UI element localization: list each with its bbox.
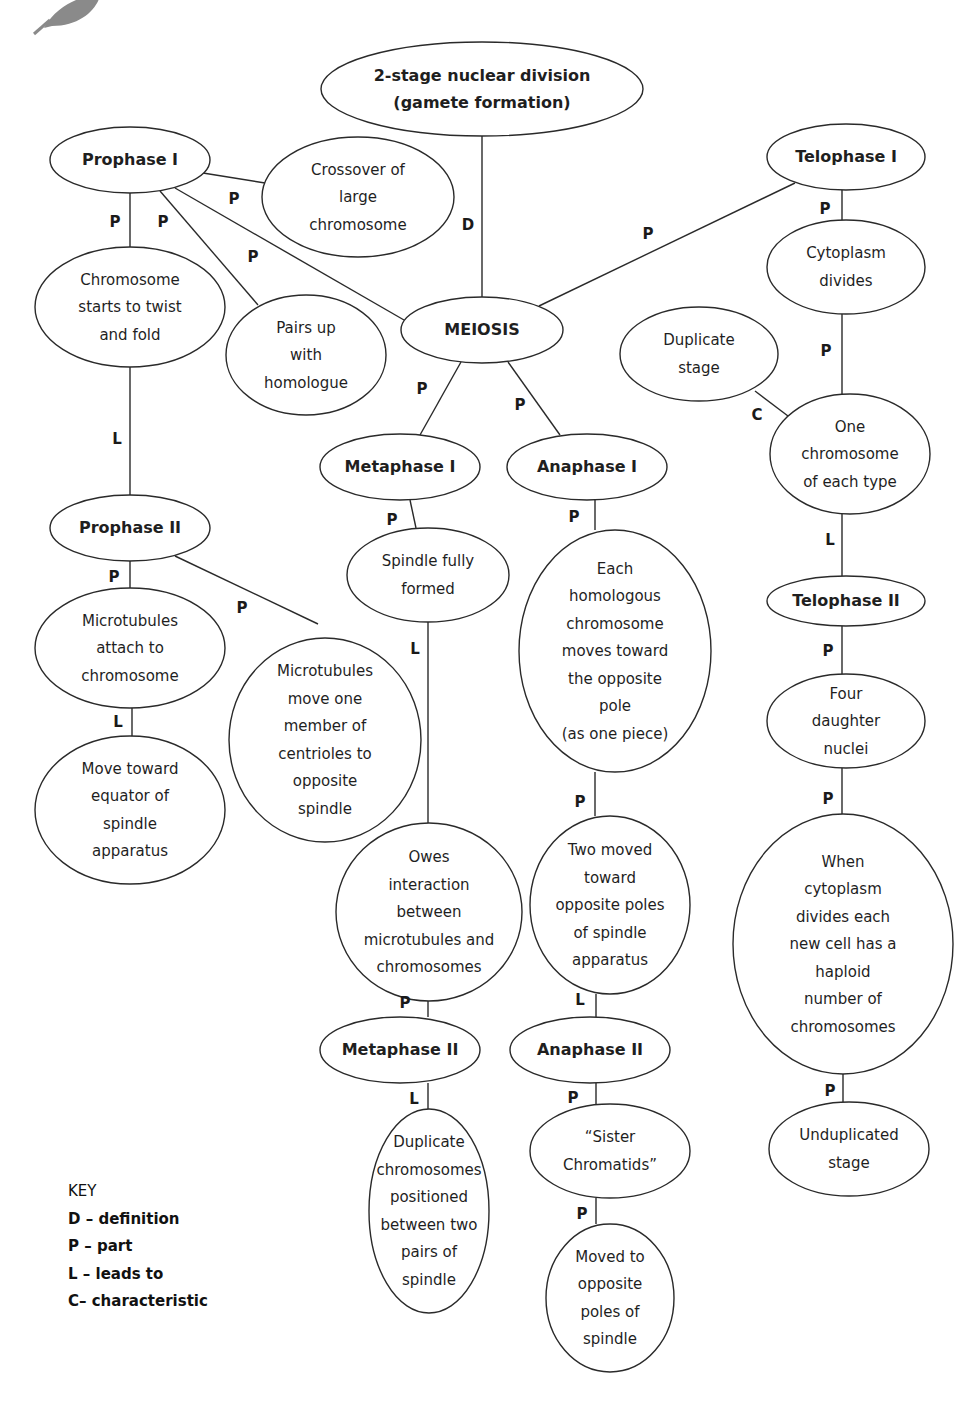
node-ellipse <box>321 42 643 136</box>
edge-label: P <box>823 790 834 808</box>
edge-label: P <box>820 200 831 218</box>
node-four: Fourdaughternuclei <box>767 674 925 768</box>
node-spindle: Spindle fullyformed <box>347 528 509 622</box>
node-ellipse <box>769 1102 929 1196</box>
node-ellipse <box>530 1104 690 1198</box>
legend-item-leads-to: L – leads to <box>68 1261 208 1289</box>
edge-label: L <box>409 1090 419 1108</box>
edge-label: L <box>112 430 122 448</box>
node-label: MEIOSIS <box>444 320 519 339</box>
legend-title: KEY <box>68 1178 208 1206</box>
node-def: 2-stage nuclear division(gamete formatio… <box>321 42 643 136</box>
node-cytoplasm: Cytoplasmdivides <box>767 220 925 314</box>
legend-item-part: P – part <box>68 1233 208 1261</box>
node-attach: Microtubulesattach tochromosome <box>35 588 225 708</box>
node-metaphase1: Metaphase I <box>320 434 480 500</box>
node-ellipse <box>546 1224 674 1372</box>
edge-label: P <box>577 1205 588 1223</box>
node-metaphase2: Metaphase II <box>320 1017 480 1083</box>
edge-metaphase1-spindle <box>410 500 416 528</box>
edge-label: L <box>575 991 585 1009</box>
node-twomoved: Two movedtowardopposite polesof spindlea… <box>530 816 690 994</box>
node-onechrom: Onechromosomeof each type <box>770 394 930 514</box>
node-label: Metaphase II <box>342 1040 459 1059</box>
node-ellipse <box>767 220 925 314</box>
edge-label: P <box>248 248 259 266</box>
edge-label: P <box>158 213 169 231</box>
node-pairs: Pairs upwithhomologue <box>226 295 386 415</box>
legend-item-definition: D – definition <box>68 1206 208 1234</box>
node-label: Metaphase I <box>345 457 456 476</box>
node-ellipse <box>620 307 778 401</box>
edge-label: L <box>410 640 420 658</box>
node-sister: “SisterChromatids” <box>530 1104 690 1198</box>
node-label: Telophase II <box>792 591 900 610</box>
node-ellipse <box>35 736 225 884</box>
edge-label: P <box>515 396 526 414</box>
edge-label: P <box>821 342 832 360</box>
node-anaphase2: Anaphase II <box>510 1017 670 1083</box>
node-unduplicated: Unduplicatedstage <box>769 1102 929 1196</box>
node-telophase1: Telophase I <box>767 124 925 190</box>
node-prophase2: Prophase II <box>50 495 210 561</box>
node-equator: Move towardequator ofspindleapparatus <box>35 736 225 884</box>
node-ellipse <box>347 528 509 622</box>
node-anaphase1: Anaphase I <box>507 434 667 500</box>
edge-label: P <box>387 511 398 529</box>
node-haploid: Whencytoplasmdivides eachnew cell has ah… <box>733 814 953 1074</box>
edge-meiosis-telophase1 <box>539 183 795 306</box>
node-label: Telophase I <box>795 147 897 166</box>
legend-item-characteristic: C– characteristic <box>68 1288 208 1316</box>
legend-key: KEY D – definition P – part L – leads to… <box>68 1178 208 1316</box>
node-centrioles: Microtubulesmove onemember ofcentrioles … <box>229 638 421 842</box>
edge-label: L <box>113 713 123 731</box>
node-telophase2: Telophase II <box>767 576 925 626</box>
node-twist: Chromosomestarts to twistand fold <box>35 247 225 367</box>
edge-label: P <box>110 213 121 231</box>
node-movedto: Moved tooppositepoles ofspindle <box>546 1224 674 1372</box>
edge-meiosis-metaphase1 <box>420 362 461 435</box>
edge-label: P <box>229 190 240 208</box>
edge-label: D <box>462 216 474 234</box>
node-meiosis: MEIOSIS <box>401 297 563 363</box>
node-duplicate: Duplicatestage <box>620 307 778 401</box>
edge-label: P <box>643 225 654 243</box>
edge-label: P <box>237 599 248 617</box>
node-homologous: Eachhomologouschromosomemoves towardthe … <box>519 530 711 772</box>
edge-label: L <box>825 531 835 549</box>
edge-label: P <box>825 1082 836 1100</box>
edge-prophase1-crossover <box>203 173 265 183</box>
edge-label: P <box>109 568 120 586</box>
edge-label: P <box>400 994 411 1012</box>
node-label: Prophase II <box>79 518 181 537</box>
nodes-layer: 2-stage nuclear division(gamete formatio… <box>35 42 953 1372</box>
node-label: Anaphase II <box>537 1040 643 1059</box>
node-prophase1: Prophase I <box>50 127 210 193</box>
node-label: Prophase I <box>82 150 178 169</box>
leaf-icon <box>34 0 100 34</box>
edge-label: P <box>569 508 580 526</box>
edge-label: P <box>417 380 428 398</box>
edge-label: P <box>575 793 586 811</box>
node-crossover: Crossover oflargechromosome <box>262 137 454 257</box>
edge-label: C <box>751 406 762 424</box>
node-owes: Owesinteractionbetweenmicrotubules andch… <box>336 823 522 1001</box>
edge-label: P <box>568 1089 579 1107</box>
node-duplicatechrom: Duplicatechromosomespositionedbetween tw… <box>369 1109 489 1313</box>
edge-label: P <box>823 642 834 660</box>
node-label: Anaphase I <box>537 457 637 476</box>
